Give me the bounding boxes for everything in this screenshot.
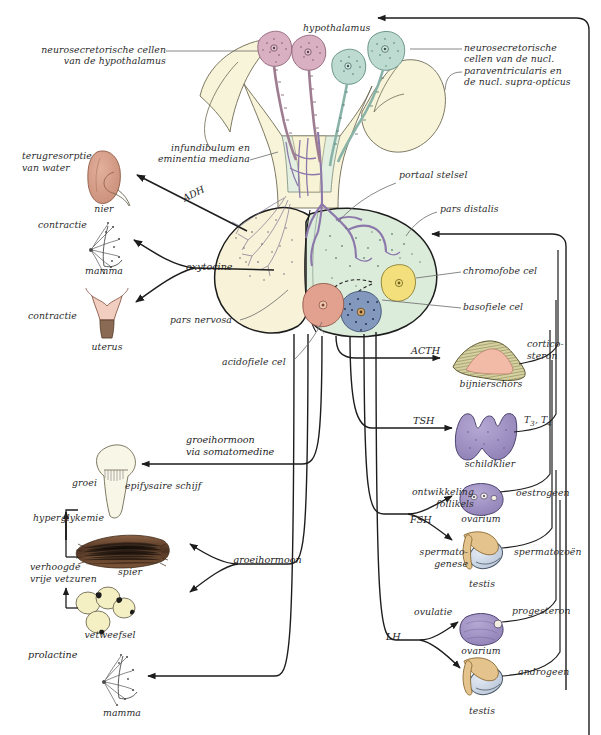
product-t3-t4: T3, T4	[524, 414, 552, 428]
chromofobe-cel-shape	[381, 265, 415, 302]
effect-spermatogenese: spermato- genese	[392, 546, 468, 569]
organ-label-testis-lh: testis	[458, 705, 506, 716]
label-hypothalamus: hypothalamus	[303, 22, 370, 33]
organ-label-testis-fsh: testis	[458, 578, 506, 589]
t3-t4-text: T3, T4	[524, 414, 552, 425]
hypothalamus-pituitary-body	[200, 40, 445, 337]
effect-groei: groei	[72, 477, 97, 488]
label-portaal-stelsel: portaal stelsel	[399, 169, 467, 180]
label-pars-nervosa: pars nervosa	[170, 314, 232, 325]
organ-ovarium-lh	[460, 614, 503, 646]
label-neuro-cells-hypothalamus: neurosecretorische cellen van de hypotha…	[14, 44, 166, 67]
hormone-fsh: FSH	[410, 514, 432, 525]
product-corticosteron: cortico- steron	[527, 338, 593, 361]
product-androgeen: androgeen	[518, 666, 569, 677]
organ-label-ovarium-lh: ovarium	[452, 645, 510, 656]
effect-ontwikkeling-follikels: ontwikkeling follikels	[392, 486, 474, 509]
organ-testis-lh	[463, 658, 507, 700]
organ-bijnierschors	[453, 341, 525, 381]
hormone-prolactine: prolactine	[28, 649, 77, 660]
effect-nier: terugresorptie van water	[22, 150, 108, 173]
basofiele-cel-shape	[340, 291, 381, 331]
hormone-acth: ACTH	[411, 345, 440, 356]
product-spermatozoen: spermatozoën	[514, 546, 582, 557]
product-progesteron: progesteron	[512, 605, 571, 616]
acidofiele-cel-shape	[303, 283, 344, 326]
label-basofiele-cel: basofiele cel	[463, 301, 523, 312]
effect-spier: hyperglykemie	[33, 512, 104, 523]
organ-label-bijnierschors: bijnierschors	[453, 378, 529, 389]
effect-uterus: contractie	[28, 310, 77, 321]
organ-label-schildklier: schildklier	[456, 458, 524, 469]
organ-label-nier: nier	[84, 203, 124, 214]
label-pars-distalis: pars distalis	[440, 203, 499, 214]
organ-uterus	[86, 288, 128, 338]
effect-ovulatie: ovulatie	[414, 606, 452, 617]
label-chromofobe-cel: chromofobe cel	[463, 265, 537, 276]
hormone-groeihormoon: groeihormoon	[233, 554, 302, 565]
organ-label-spier: spier	[118, 566, 142, 577]
effect-vetweefsel: verhoogde vrije vetzuren	[30, 561, 110, 584]
hormone-tsh: TSH	[413, 415, 434, 426]
effect-mamma-oxytocine: contractie	[38, 219, 87, 230]
label-acidofiele-cel: acidofiele cel	[222, 356, 286, 367]
label-neuro-cells-nuclei: neurosecretorische cellen van de nucl. p…	[464, 42, 594, 87]
product-oestrogeen: oestrogeen	[516, 487, 570, 498]
organ-label-vetweefsel: vetweefsel	[78, 629, 142, 640]
organ-label-epifysaire-schijf: epifysaire schijf	[125, 480, 201, 491]
hormone-groeihormoon-somatomedine: groeihormoon via somatomedine	[186, 434, 316, 458]
organ-schildklier	[455, 414, 516, 460]
organ-label-uterus: uterus	[84, 341, 130, 352]
organ-label-mamma-oxytocine: mamma	[78, 265, 130, 276]
hormone-lh: LH	[386, 631, 401, 642]
endocrine-diagram	[0, 0, 601, 735]
label-infundibulum: infundibulum en eminentia mediana	[120, 142, 250, 165]
hormone-oxytocine: oxytocine	[186, 261, 233, 272]
organ-label-ovarium-fsh: ovarium	[452, 513, 510, 524]
organ-mamma-prolactine	[102, 654, 137, 706]
organ-label-mamma-prolactine: mamma	[96, 707, 148, 718]
organ-vetweefsel	[76, 587, 135, 635]
organ-testis-fsh	[463, 532, 507, 574]
